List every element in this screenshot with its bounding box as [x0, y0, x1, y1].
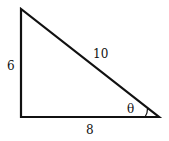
- side-label-vertical: 6: [7, 59, 15, 73]
- angle-label-theta: θ: [127, 102, 134, 116]
- side-label-horizontal: 8: [86, 123, 94, 137]
- side-label-hypotenuse: 10: [93, 47, 108, 61]
- triangle: [21, 9, 159, 117]
- right-triangle-diagram: 6 10 θ 8: [0, 0, 169, 141]
- angle-arc: [145, 109, 148, 118]
